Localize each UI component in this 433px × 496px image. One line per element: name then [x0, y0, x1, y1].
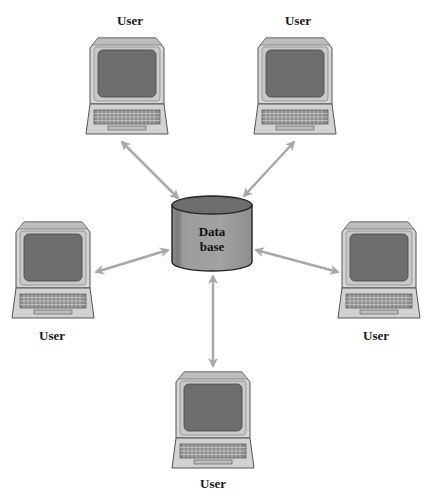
database-label-line2: base — [172, 239, 252, 254]
arrow-left — [96, 250, 168, 272]
user-label-top-left: User — [100, 13, 160, 29]
terminal-right — [338, 222, 420, 318]
user-label-right: User — [346, 328, 406, 344]
database-label-line1: Data — [172, 224, 252, 239]
user-label-top-right: User — [268, 13, 328, 29]
arrow-top-left — [122, 142, 178, 198]
user-label-left: User — [22, 328, 82, 344]
terminal-top-left — [86, 38, 168, 134]
user-label-bottom: User — [183, 476, 243, 492]
arrow-right — [256, 250, 338, 272]
database-label: Data base — [172, 224, 252, 254]
terminal-bottom — [172, 372, 254, 468]
terminal-left — [12, 222, 94, 318]
arrow-top-right — [244, 142, 294, 196]
terminal-top-right — [254, 38, 336, 134]
